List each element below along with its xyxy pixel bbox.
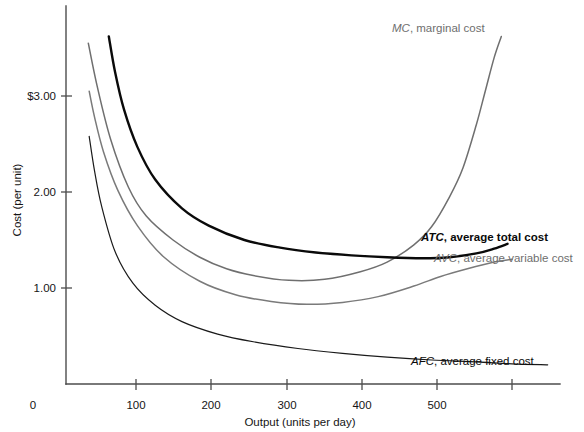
curve-mc — [88, 36, 501, 280]
mc-abbr: MC — [392, 22, 410, 34]
y-tick-label-3: $3.00 — [27, 90, 56, 102]
x-tick-label-100: 100 — [126, 399, 145, 411]
y-axis-title: Cost (per unit) — [11, 163, 23, 236]
x-tick-label-400: 400 — [352, 399, 371, 411]
x-tick-label-300: 300 — [277, 399, 296, 411]
x-tick-label-0: 0 — [30, 399, 36, 411]
avc-label: AVC, average variable cost — [434, 252, 573, 264]
y-tick-label-2: 2.00 — [34, 186, 56, 198]
afc-abbr: AFC — [411, 355, 434, 367]
x-axis-title: Output (units per day) — [244, 416, 355, 428]
chart-canvas: $3.00 2.00 1.00 0 100 200 300 400 500 Ou… — [0, 0, 584, 432]
atc-abbr: ATC — [421, 231, 444, 243]
atc-label: ATC, average total cost — [421, 231, 548, 243]
y-tick-label-1: 1.00 — [34, 282, 56, 294]
afc-label: AFC, average fixed cost — [411, 355, 534, 367]
avc-desc: , average variable cost — [457, 252, 573, 264]
cost-curves-figure: $3.00 2.00 1.00 0 100 200 300 400 500 Ou… — [0, 0, 584, 432]
x-tick-label-200: 200 — [201, 399, 220, 411]
atc-desc: , average total cost — [444, 231, 548, 243]
mc-label: MC, marginal cost — [392, 22, 485, 34]
mc-desc: , marginal cost — [410, 22, 485, 34]
curve-atc — [109, 36, 508, 258]
avc-abbr: AVC — [434, 252, 457, 264]
x-tick-label-500: 500 — [427, 399, 446, 411]
afc-desc: , average fixed cost — [434, 355, 534, 367]
